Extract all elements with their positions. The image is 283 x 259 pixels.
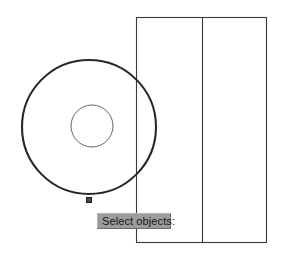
cad-drawing-canvas[interactable]: Select objects: xyxy=(0,0,283,259)
select-objects-prompt: Select objects: xyxy=(97,213,171,229)
selection-grip[interactable] xyxy=(87,198,92,203)
outer-circle[interactable] xyxy=(22,60,156,194)
inner-circle[interactable] xyxy=(71,105,113,147)
prompt-label: Select objects: xyxy=(102,215,175,228)
